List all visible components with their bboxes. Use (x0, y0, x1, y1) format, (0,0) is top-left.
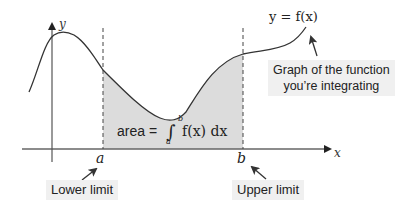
lower-limit-symbol: a (96, 150, 104, 166)
function-callout-line1: Graph of the function (273, 62, 390, 78)
integrand: f(x) dx (182, 123, 227, 139)
function-curve (29, 27, 306, 120)
integral-upper-limit: b (178, 114, 183, 123)
curve-label: y = f(x) (268, 9, 318, 24)
lower-limit-callout: Lower limit (46, 180, 118, 200)
diagram-canvas: y x a b y = f(x) area = ∫ b a f(x) dx (0, 0, 404, 206)
function-callout-line2: you’re integrating (273, 78, 390, 94)
x-axis-label: x (334, 146, 341, 160)
upper-limit-symbol: b (237, 150, 246, 166)
area-formula-prefix: area = (117, 123, 157, 139)
y-axis-label: y (58, 17, 66, 31)
integral-diagram: y x a b y = f(x) area = ∫ b a f(x) dx Gr… (0, 0, 404, 206)
integral-lower-limit: a (166, 137, 171, 146)
upper-limit-arrow (252, 167, 266, 179)
upper-limit-callout: Upper limit (232, 180, 304, 200)
lower-limit-arrow (82, 169, 96, 180)
function-callout-arrow (311, 37, 317, 56)
function-callout: Graph of the function you’re integrating (268, 60, 395, 96)
